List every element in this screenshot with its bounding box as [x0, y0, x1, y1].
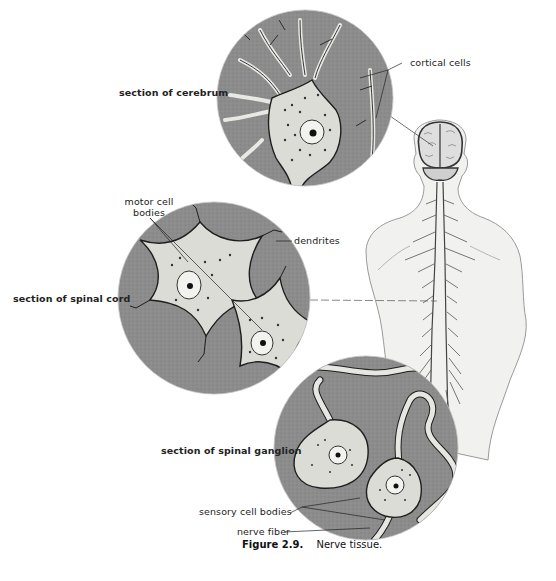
- label-motor-cell-line1: motor cell: [121, 196, 177, 207]
- label-nerve-fiber: nerve fiber: [237, 526, 290, 537]
- label-motor-cell-line2: bodies: [121, 207, 177, 218]
- label-section-cerebrum: section of cerebrum: [119, 87, 228, 98]
- figure-number: Figure 2.9.: [242, 539, 303, 550]
- figure-caption-text: Nerve tissue.: [316, 539, 382, 550]
- label-cortical-cells: cortical cells: [410, 57, 471, 68]
- label-sensory-cell-bodies: sensory cell bodies: [199, 506, 292, 517]
- label-section-spinal-ganglion: section of spinal ganglion: [161, 445, 302, 456]
- label-dendrites: dendrites: [294, 235, 340, 246]
- cerebrum-section-circle: [217, 10, 393, 190]
- spinal-cord-section-circle: [118, 202, 320, 394]
- figure-caption: Figure 2.9. Nerve tissue.: [242, 539, 382, 550]
- label-motor-cell-bodies: motor cell bodies: [121, 196, 177, 218]
- nerve-tissue-illustration: [0, 0, 556, 581]
- label-section-spinal-cord: section of spinal cord: [13, 293, 130, 304]
